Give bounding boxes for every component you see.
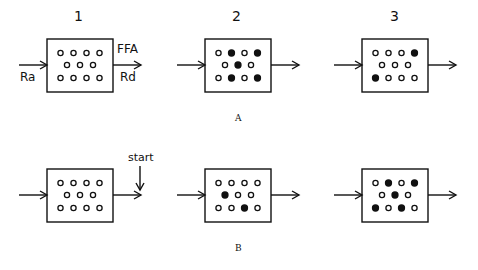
unlabeled-molecule-icon xyxy=(71,75,76,80)
unlabeled-molecule-icon xyxy=(405,192,410,197)
labeled-molecule-icon xyxy=(222,192,228,198)
labeled-molecule-icon xyxy=(412,180,418,186)
start-label: start xyxy=(128,151,154,164)
unlabeled-molecule-icon xyxy=(399,50,404,55)
labeled-molecule-icon xyxy=(412,50,418,56)
unlabeled-molecule-icon xyxy=(373,180,378,185)
unlabeled-molecule-icon xyxy=(97,50,102,55)
unlabeled-molecule-icon xyxy=(64,192,69,197)
labeled-molecule-icon xyxy=(229,75,235,81)
unlabeled-molecule-icon xyxy=(84,50,89,55)
unlabeled-molecule-icon xyxy=(405,62,410,67)
rd-label: Rd xyxy=(120,70,136,84)
unlabeled-molecule-icon xyxy=(216,205,221,210)
unlabeled-molecule-icon xyxy=(399,75,404,80)
diagram-canvas xyxy=(0,0,478,270)
unlabeled-molecule-icon xyxy=(71,180,76,185)
section-label-b: B xyxy=(235,243,242,253)
unlabeled-molecule-icon xyxy=(58,205,63,210)
unlabeled-molecule-icon xyxy=(235,192,240,197)
labeled-molecule-icon xyxy=(386,180,392,186)
unlabeled-molecule-icon xyxy=(242,180,247,185)
labeled-molecule-icon xyxy=(255,75,261,81)
labeled-molecule-icon xyxy=(229,50,235,56)
labeled-molecule-icon xyxy=(373,75,379,81)
unlabeled-molecule-icon xyxy=(97,75,102,80)
unlabeled-molecule-icon xyxy=(71,50,76,55)
unlabeled-molecule-icon xyxy=(379,62,384,67)
unlabeled-molecule-icon xyxy=(248,62,253,67)
unlabeled-molecule-icon xyxy=(386,205,391,210)
unlabeled-molecule-icon xyxy=(412,205,417,210)
section-label-a: A xyxy=(235,113,242,123)
unlabeled-molecule-icon xyxy=(216,180,221,185)
unlabeled-molecule-icon xyxy=(399,180,404,185)
unlabeled-molecule-icon xyxy=(58,50,63,55)
unlabeled-molecule-icon xyxy=(71,205,76,210)
unlabeled-molecule-icon xyxy=(90,62,95,67)
unlabeled-molecule-icon xyxy=(386,75,391,80)
labeled-molecule-icon xyxy=(242,205,248,211)
unlabeled-molecule-icon xyxy=(64,62,69,67)
unlabeled-molecule-icon xyxy=(77,62,82,67)
unlabeled-molecule-icon xyxy=(379,192,384,197)
panel-number-1: 1 xyxy=(74,8,83,24)
unlabeled-molecule-icon xyxy=(229,205,234,210)
labeled-molecule-icon xyxy=(399,205,405,211)
unlabeled-molecule-icon xyxy=(373,50,378,55)
unlabeled-molecule-icon xyxy=(90,192,95,197)
panel-number-2: 2 xyxy=(232,8,241,24)
labeled-molecule-icon xyxy=(373,205,379,211)
unlabeled-molecule-icon xyxy=(97,205,102,210)
labeled-molecule-icon xyxy=(255,50,261,56)
labeled-molecule-icon xyxy=(392,192,398,198)
unlabeled-molecule-icon xyxy=(216,75,221,80)
unlabeled-molecule-icon xyxy=(242,75,247,80)
unlabeled-molecule-icon xyxy=(216,50,221,55)
unlabeled-molecule-icon xyxy=(386,50,391,55)
unlabeled-molecule-icon xyxy=(84,75,89,80)
unlabeled-molecule-icon xyxy=(84,205,89,210)
unlabeled-molecule-icon xyxy=(255,180,260,185)
unlabeled-molecule-icon xyxy=(77,192,82,197)
unlabeled-molecule-icon xyxy=(97,180,102,185)
unlabeled-molecule-icon xyxy=(222,62,227,67)
ra-label: Ra xyxy=(20,70,35,84)
ffa-label: FFA xyxy=(117,42,138,56)
unlabeled-molecule-icon xyxy=(58,180,63,185)
unlabeled-molecule-icon xyxy=(58,75,63,80)
unlabeled-molecule-icon xyxy=(255,205,260,210)
unlabeled-molecule-icon xyxy=(242,50,247,55)
unlabeled-molecule-icon xyxy=(392,62,397,67)
unlabeled-molecule-icon xyxy=(248,192,253,197)
unlabeled-molecule-icon xyxy=(412,75,417,80)
labeled-molecule-icon xyxy=(235,62,241,68)
unlabeled-molecule-icon xyxy=(229,180,234,185)
unlabeled-molecule-icon xyxy=(84,180,89,185)
panel-number-3: 3 xyxy=(390,8,399,24)
